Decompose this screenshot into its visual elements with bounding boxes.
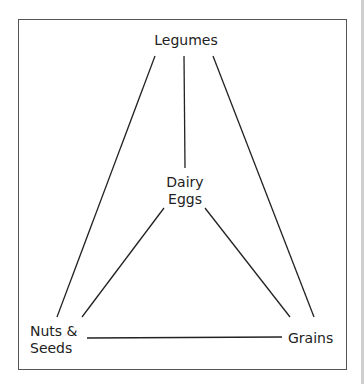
node-nuts-seeds: Nuts & Seeds — [30, 323, 84, 357]
node-legumes: Legumes — [148, 32, 224, 49]
edge-dairy-nuts — [82, 208, 164, 317]
edge-legumes-grains — [213, 56, 314, 317]
node-dairy-label: Dairy — [160, 174, 210, 191]
edge-legumes-nuts — [57, 56, 155, 317]
node-seeds-label: Seeds — [30, 340, 84, 357]
node-grains: Grains — [288, 330, 338, 347]
node-nuts-label: Nuts & — [30, 323, 84, 340]
node-legumes-label: Legumes — [154, 32, 217, 48]
node-grains-label: Grains — [288, 330, 333, 346]
node-eggs-label: Eggs — [160, 191, 210, 208]
edge-nuts-grains — [87, 337, 282, 338]
node-dairy-eggs: Dairy Eggs — [160, 174, 210, 208]
edge-dairy-grains — [205, 208, 290, 317]
edge-legumes-dairy — [184, 56, 185, 168]
